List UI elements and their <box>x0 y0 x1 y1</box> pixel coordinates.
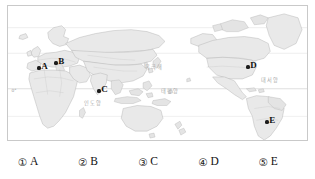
answer-choice-5-number: ⑤ <box>259 157 268 168</box>
answer-choice-4-number: ④ <box>199 157 208 168</box>
point-b-dot <box>54 61 57 64</box>
pacific-ocean-label: 태평양 <box>161 89 179 94</box>
answer-choice-2-label: B <box>90 156 98 168</box>
answer-choice-3[interactable]: ③ C <box>127 156 187 168</box>
point-c-label: C <box>101 85 108 94</box>
atlantic-ocean-label: 대서양 <box>261 78 279 83</box>
answer-choice-1-label: A <box>30 156 38 168</box>
point-b-label: B <box>58 57 64 66</box>
answer-choice-3-number: ③ <box>138 157 147 168</box>
point-c-dot <box>97 89 100 92</box>
answer-choice-1-number: ① <box>18 157 27 168</box>
answer-choice-4[interactable]: ④ D <box>188 156 248 168</box>
point-a-dot <box>37 66 40 69</box>
point-d-label: D <box>250 61 257 70</box>
map-figure: .land { fill:#e9e9e9; stroke:#b2b2b2; st… <box>7 5 308 141</box>
arctic-area-label: 북극해 <box>145 65 163 70</box>
answer-choices: ① A ② B ③ C ④ D ⑤ E <box>7 150 308 174</box>
answer-choice-2[interactable]: ② B <box>67 156 127 168</box>
point-e-label: E <box>269 116 275 125</box>
indian-ocean-label: 인도양 <box>84 101 102 106</box>
answer-choice-5-label: E <box>271 156 278 168</box>
answer-choice-2-number: ② <box>78 157 87 168</box>
answer-choice-4-label: D <box>211 156 219 168</box>
world-map-graphic: .land { fill:#e9e9e9; stroke:#b2b2b2; st… <box>8 6 307 140</box>
latitude-label-equator: 0° <box>12 89 17 93</box>
answer-choice-3-label: C <box>150 156 158 168</box>
point-e-dot <box>265 120 268 123</box>
answer-choice-5[interactable]: ⑤ E <box>248 156 308 168</box>
answer-choice-1[interactable]: ① A <box>7 156 67 168</box>
point-a-label: A <box>41 62 48 71</box>
point-d-dot <box>246 65 249 68</box>
